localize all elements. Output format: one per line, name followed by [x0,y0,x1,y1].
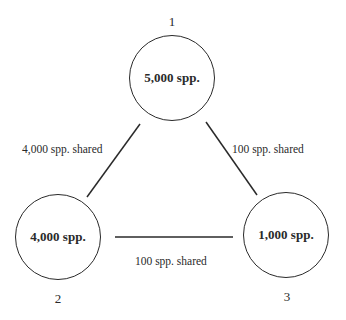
node-3-circle: 1,000 spp. [243,192,329,278]
node-3-number: 3 [277,289,297,305]
node-1-circle: 5,000 spp. [129,35,215,121]
edge-1-2-label: 4,000 spp. shared [22,143,103,155]
node-3-label: 1,000 spp. [258,227,313,243]
edge-1-3 [206,122,257,195]
edge-2-3-label: 100 spp. shared [135,255,207,267]
node-2-label: 4,000 spp. [30,229,85,245]
node-2-circle: 4,000 spp. [15,194,101,280]
edge-1-3-label: 100 spp. shared [232,143,304,155]
node-1-number: 1 [162,14,182,30]
edge-1-2 [87,124,140,197]
node-2-number: 2 [48,291,68,307]
node-1-label: 5,000 spp. [144,70,199,86]
